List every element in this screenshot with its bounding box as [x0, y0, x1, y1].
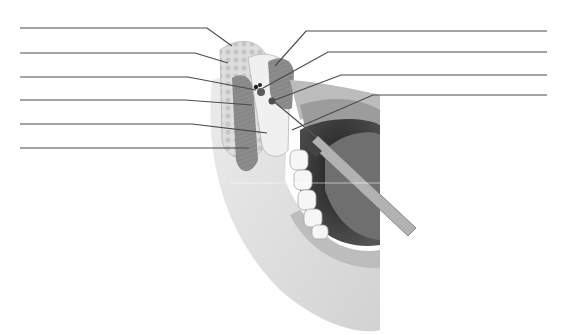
leader-L1: [20, 28, 232, 46]
nerve-2: [258, 83, 262, 87]
nerve-1: [254, 85, 258, 89]
leader-R1: [275, 31, 547, 66]
illustration: [0, 0, 568, 335]
leader-L2: [20, 53, 228, 63]
anatomy-diagram: [0, 0, 568, 335]
vessel: [257, 88, 265, 96]
